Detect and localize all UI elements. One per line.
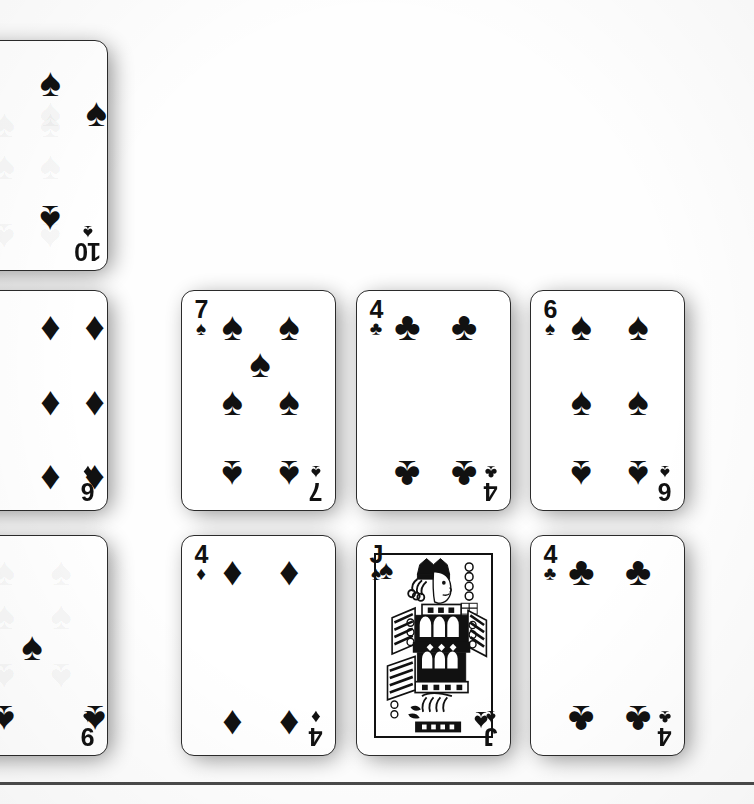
card-index-bottom-right: 4 ♣ — [650, 709, 680, 749]
card-nine-of-spades[interactable]: 9 ♠ 9 ♠ ♠ ♠ ♠ ♠ ♠ ♠ ♠ ♠ ♠ — [0, 535, 108, 756]
pip-spade-ghost: ♠ — [40, 103, 61, 143]
pip-spade: ♠ — [571, 381, 592, 421]
spade-icon: ♠ — [535, 321, 565, 337]
card-index-top-left: 6 ♠ — [535, 297, 565, 337]
diamond-icon: ♦ — [73, 464, 103, 480]
card-four-of-clubs-lower[interactable]: 4 ♣ 4 ♣ ♣ ♣ ♣ ♣ — [530, 535, 685, 756]
pip-club: ♣ — [451, 306, 477, 346]
pip-diamond: ♦ — [222, 551, 242, 591]
card-six-of-spades[interactable]: 6 ♠ 6 ♠ ♠ ♠ ♠ ♠ ♠ ♠ — [530, 290, 685, 511]
pip-diamond: ♦ — [279, 551, 299, 591]
pip-spade: ♠ — [278, 306, 299, 346]
pip-spade-ghost: ♠ — [50, 658, 71, 698]
card-index-bottom-right: 9 ♠ — [73, 709, 103, 749]
pip-spade-ghost: ♠ — [40, 145, 61, 185]
card-jack-of-spades[interactable]: J ♠ J ♠ ♠ ♠ — [356, 535, 511, 756]
diamond-icon: ♦ — [186, 566, 216, 582]
pip-club: ♣ — [394, 455, 420, 495]
pip-spade: ♠ — [222, 381, 243, 421]
pip-club: ♣ — [394, 306, 420, 346]
pip-club: ♣ — [568, 700, 594, 740]
card-index-bottom-right: 6 ♠ — [650, 464, 680, 504]
pip-diamond: ♦ — [85, 306, 105, 346]
card-index-bottom-right: 4 ♣ — [476, 464, 506, 504]
pip-spade: ♠ — [571, 306, 592, 346]
horizontal-rule — [0, 782, 754, 785]
card-four-of-diamonds[interactable]: 4 ♦ 4 ♦ ♦ ♦ ♦ ♦ — [181, 535, 336, 756]
pip-spade: ♠ — [86, 92, 107, 132]
spade-icon: ♠ — [361, 566, 391, 582]
spade-icon: ♠ — [186, 321, 216, 337]
pip-spade: ♠ — [21, 626, 42, 666]
spade-icon: ♠ — [301, 464, 331, 480]
pip-spade: ♠ — [222, 306, 243, 346]
pip-club: ♣ — [625, 551, 651, 591]
pip-spade-ghost: ♠ — [0, 218, 15, 258]
pip-spade: ♠ — [249, 343, 270, 383]
pip-spade: ♠ — [278, 381, 299, 421]
spade-icon: ♠ — [650, 464, 680, 480]
pip-club: ♣ — [625, 700, 651, 740]
pip-spade: ♠ — [222, 455, 243, 495]
pip-diamond: ♦ — [40, 381, 60, 421]
pip-spade: ♠ — [0, 700, 15, 740]
club-icon: ♣ — [476, 464, 506, 480]
card-index-top-left: 4 ♣ — [535, 542, 565, 582]
club-icon: ♣ — [361, 321, 391, 337]
club-icon: ♣ — [535, 566, 565, 582]
card-seven-of-spades[interactable]: 7 ♠ 7 ♠ ♠ ♠ ♠ ♠ ♠ ♠ ♠ — [181, 290, 336, 511]
pip-spade-ghost: ♠ — [50, 595, 71, 635]
card-index-top-left: 7 ♠ — [186, 297, 216, 337]
card-index-bottom-right: J ♠ — [476, 709, 506, 749]
card-index-top-left: 4 ♣ — [361, 297, 391, 337]
pip-spade: ♠ — [627, 455, 648, 495]
pip-club: ♣ — [568, 551, 594, 591]
pip-spade: ♠ — [627, 381, 648, 421]
card-index-top-left: 4 ♦ — [186, 542, 216, 582]
card-six-of-diamonds[interactable]: 6 ♦ 6 ♦ ♦ ♦ ♦ ♦ ♦ ♦ — [0, 290, 108, 511]
pip-spade: ♠ — [571, 455, 592, 495]
pip-club: ♣ — [451, 455, 477, 495]
pip-spade-ghost: ♠ — [0, 103, 15, 143]
club-icon: ♣ — [650, 709, 680, 725]
card-index-bottom-right: 7 ♠ — [301, 464, 331, 504]
pip-diamond: ♦ — [85, 381, 105, 421]
card-ten-of-spades[interactable]: 10 ♠ 10 ♠ ♠ ♠ ♠ ♠ ♠ ♠ ♠ ♠ ♠ ♠ — [0, 40, 108, 271]
pip-diamond: ♦ — [40, 306, 60, 346]
diamond-icon: ♦ — [301, 709, 331, 725]
pip-spade-ghost: ♠ — [50, 551, 71, 591]
card-four-of-clubs-upper[interactable]: 4 ♣ 4 ♣ ♣ ♣ ♣ ♣ — [356, 290, 511, 511]
pip-diamond: ♦ — [222, 700, 242, 740]
pip-spade-ghost: ♠ — [0, 595, 15, 635]
card-index-bottom-right: 4 ♦ — [301, 709, 331, 749]
card-index-bottom-right: 6 ♦ — [73, 464, 103, 504]
spade-icon: ♠ — [476, 709, 506, 725]
card-index-top-left: J ♠ — [361, 542, 391, 582]
pip-spade-ghost: ♠ — [0, 658, 15, 698]
scan-surface: 10 ♠ 10 ♠ ♠ ♠ ♠ ♠ ♠ ♠ ♠ ♠ ♠ ♠ 6 ♦ 6 ♦ — [0, 0, 754, 804]
pip-spade: ♠ — [627, 306, 648, 346]
pip-spade: ♠ — [278, 455, 299, 495]
pip-diamond: ♦ — [279, 700, 299, 740]
card-index-bottom-right: 10 ♠ — [73, 224, 103, 264]
pip-spade-ghost: ♠ — [0, 145, 15, 185]
pip-diamond: ♦ — [40, 455, 60, 495]
spade-icon: ♠ — [73, 709, 103, 725]
pip-spade-ghost: ♠ — [40, 218, 61, 258]
pip-spade-ghost: ♠ — [0, 551, 15, 591]
